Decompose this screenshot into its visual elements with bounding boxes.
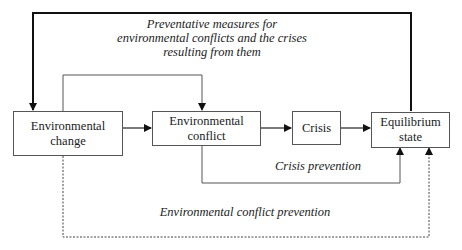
node-environmental-conflict: Environmental conflict bbox=[152, 111, 261, 146]
node-environmental-change: Environmental change bbox=[13, 111, 123, 156]
crisis-prevention-label: Crisis prevention bbox=[258, 159, 378, 173]
node-label: Environmental bbox=[169, 114, 243, 128]
env-conflict-prevention-label: Environmental conflict prevention bbox=[150, 205, 340, 219]
node-label: Environmental bbox=[31, 119, 105, 133]
node-crisis: Crisis bbox=[292, 111, 341, 145]
node-label: conflict bbox=[187, 129, 225, 143]
label-line: resulting from them bbox=[163, 45, 261, 59]
node-label: state bbox=[399, 130, 422, 144]
label-line: Preventative measures for bbox=[147, 17, 277, 31]
change-to-conflict-top-link bbox=[63, 75, 202, 111]
node-label: change bbox=[50, 134, 85, 148]
node-label: Crisis bbox=[302, 121, 331, 136]
node-label: Equilibrium bbox=[380, 115, 440, 129]
preventative-measures-label: Preventative measures for environmental … bbox=[112, 17, 312, 59]
node-equilibrium-state: Equilibrium state bbox=[371, 112, 450, 148]
label-text: Crisis prevention bbox=[275, 159, 361, 173]
label-line: environmental conflicts and the crises bbox=[117, 31, 307, 45]
label-text: Environmental conflict prevention bbox=[160, 205, 331, 219]
